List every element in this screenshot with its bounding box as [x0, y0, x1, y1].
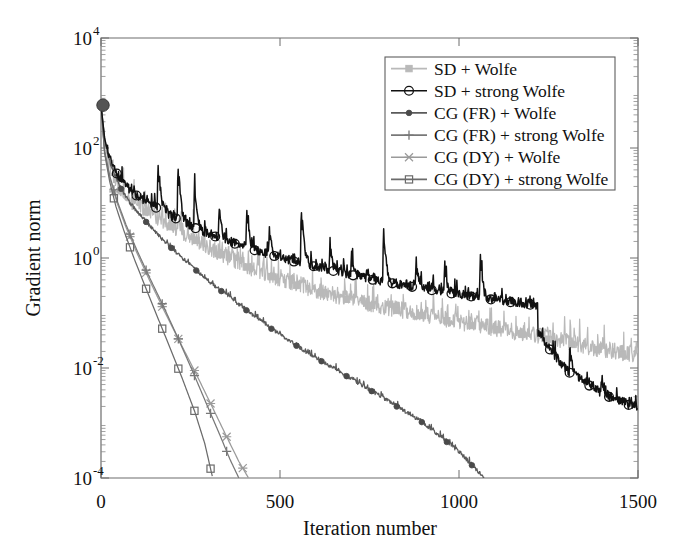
series-marker [244, 307, 250, 313]
y-tick-label-mantissa: 10 [73, 468, 92, 489]
legend-label: SD + Wolfe [434, 59, 517, 79]
series-marker [419, 312, 425, 318]
series-marker [394, 307, 400, 313]
series-marker [444, 318, 450, 324]
series-marker [243, 264, 249, 270]
gradient-norm-convergence-chart: 10-410-2100102104 050010001500 Gradient … [0, 0, 678, 555]
series-marker [343, 296, 349, 302]
y-tick-label-mantissa: 10 [73, 138, 92, 159]
y-tick-label-exponent: -2 [93, 353, 104, 368]
series-marker [319, 358, 325, 364]
series-marker [469, 462, 475, 468]
initial-point-marker [97, 99, 109, 111]
series-marker [444, 439, 450, 445]
legend-label: CG (FR) + strong Wolfe [434, 125, 605, 145]
y-axis-title: Gradient norm [22, 199, 44, 317]
series-marker [168, 223, 174, 229]
y-tick-label-exponent: 2 [93, 133, 100, 148]
series-marker [369, 388, 375, 394]
series-marker [143, 209, 149, 215]
x-tick-label: 0 [96, 491, 106, 512]
legend-label: SD + strong Wolfe [434, 81, 565, 101]
chart-legend: SD + WolfeSD + strong WolfeCG (FR) + Wol… [385, 57, 615, 190]
series-marker [294, 343, 300, 349]
y-tick-label-exponent: 0 [93, 243, 100, 258]
y-tick-label-exponent: 4 [93, 23, 100, 38]
figure-container: 10-410-2100102104 050010001500 Gradient … [0, 0, 678, 555]
series-marker [118, 186, 124, 192]
x-tick-label: 500 [266, 491, 295, 512]
series-marker [269, 326, 275, 332]
series-marker [268, 273, 274, 279]
series-marker [168, 245, 174, 251]
series-marker [218, 288, 224, 294]
series-marker [368, 302, 374, 308]
series-marker [193, 237, 199, 243]
series-marker [318, 289, 324, 295]
series-marker [193, 268, 199, 274]
y-tick-label-mantissa: 10 [73, 28, 92, 49]
y-tick-label-mantissa: 10 [73, 248, 92, 269]
legend-label: CG (DY) + strong Wolfe [434, 169, 609, 189]
x-tick-label: 1500 [619, 491, 657, 512]
series-marker [394, 404, 400, 410]
series-marker [419, 419, 425, 425]
legend-marker [406, 110, 412, 116]
series-marker [594, 346, 600, 352]
x-tick-label: 1000 [440, 491, 478, 512]
start-marker [97, 99, 109, 111]
series-marker [519, 331, 525, 337]
series-marker [344, 373, 350, 379]
legend-marker [406, 65, 412, 71]
y-tick-label-exponent: -4 [93, 463, 104, 478]
series-marker [619, 351, 625, 357]
legend-label: CG (FR) + Wolfe [434, 103, 557, 123]
legend-label: CG (DY) + Wolfe [434, 147, 560, 167]
series-marker [494, 326, 500, 332]
series-marker [218, 251, 224, 257]
y-tick-label-mantissa: 10 [73, 358, 92, 379]
series-marker [569, 341, 575, 347]
x-axis-title: Iteration number [303, 517, 437, 539]
series-marker [293, 282, 299, 288]
series-marker [143, 219, 149, 225]
series-marker [469, 322, 475, 328]
